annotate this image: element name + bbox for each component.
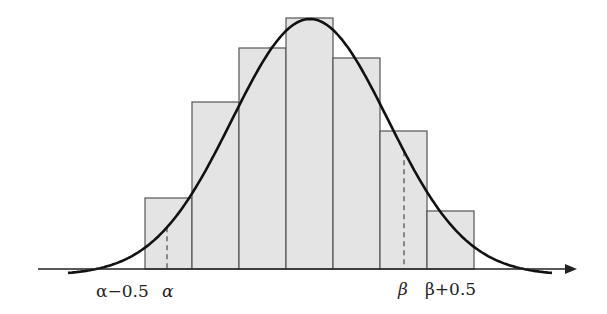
label-alpha-minus-half: α−0.5 bbox=[96, 283, 149, 300]
label-beta-plus-half: β+0.5 bbox=[425, 281, 476, 298]
histogram-plot bbox=[0, 0, 607, 314]
x-axis-arrow-icon bbox=[565, 264, 577, 274]
histogram-figure: α−0.5 α β β+0.5 bbox=[0, 0, 607, 314]
label-beta: β bbox=[398, 281, 408, 298]
histogram-bar-2 bbox=[192, 102, 239, 269]
histogram-bar-4 bbox=[286, 18, 333, 269]
histogram-bar-1 bbox=[145, 198, 192, 269]
histogram-bar-3 bbox=[239, 48, 286, 269]
label-alpha: α bbox=[162, 283, 173, 300]
histogram-bars bbox=[145, 18, 474, 269]
